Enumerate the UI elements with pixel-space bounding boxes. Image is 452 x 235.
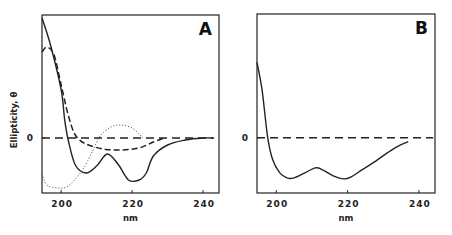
panel-b: 2002202400nmB bbox=[242, 14, 435, 223]
plot-frame bbox=[42, 15, 219, 193]
panel-a: Ellipticity, θ 2002202400nmA bbox=[9, 15, 219, 223]
y-tick-label: 0 bbox=[27, 133, 34, 143]
panel-label: B bbox=[415, 18, 428, 38]
plot-frame bbox=[257, 14, 435, 193]
cd-spectra-figure: Ellipticity, θ 2002202400nmA 2002202400n… bbox=[0, 0, 452, 235]
x-tick-label: 240 bbox=[193, 199, 215, 209]
y-tick-label: 0 bbox=[242, 133, 249, 143]
series-solid-line bbox=[257, 62, 408, 179]
x-tick-label: 220 bbox=[122, 199, 144, 209]
x-tick-label: 220 bbox=[338, 199, 360, 209]
series-dashed-line bbox=[42, 47, 164, 150]
y-axis-label: Ellipticity, θ bbox=[9, 92, 19, 149]
x-axis-label: nm bbox=[339, 213, 354, 223]
x-tick-label: 200 bbox=[266, 199, 288, 209]
panel-label: A bbox=[199, 19, 213, 39]
series-solid-line bbox=[42, 18, 214, 182]
x-tick-label: 200 bbox=[51, 199, 73, 209]
x-tick-label: 240 bbox=[409, 199, 431, 209]
x-axis-label: nm bbox=[123, 213, 138, 223]
